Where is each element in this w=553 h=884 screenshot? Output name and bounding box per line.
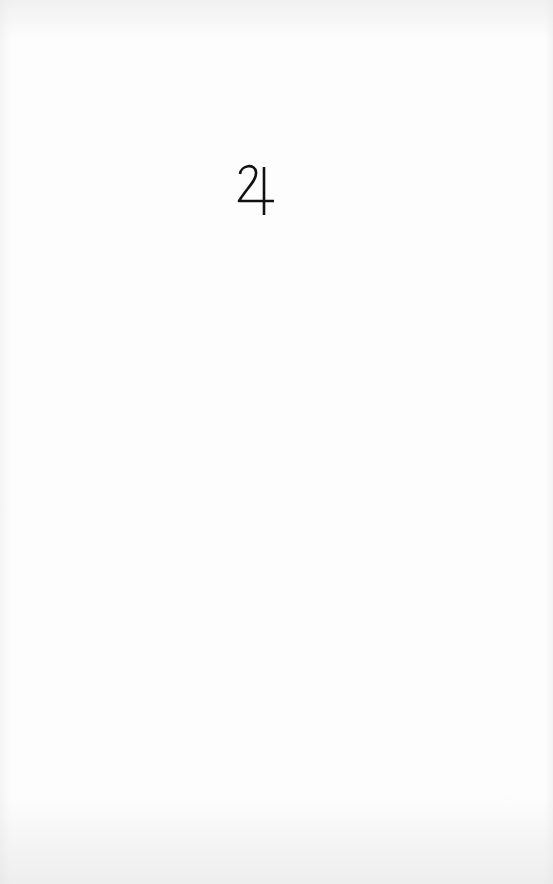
jupiter-symbol-icon: ♃ xyxy=(233,158,277,218)
scanned-page: ♃ xyxy=(0,0,553,884)
